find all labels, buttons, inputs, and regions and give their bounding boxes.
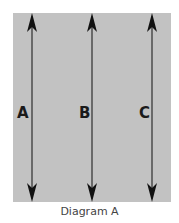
arrow-label-a: A <box>17 106 29 121</box>
diagram-caption: Diagram A <box>0 205 179 218</box>
arrow-label-b: B <box>79 106 90 121</box>
arrow-label-c: C <box>139 106 150 121</box>
